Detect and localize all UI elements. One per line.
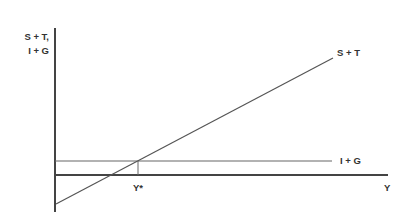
leakages-line-label: S + T <box>337 47 360 58</box>
y-axis-label-line1: S + T, <box>24 31 49 42</box>
y-axis-label-line2: I + G <box>28 45 49 56</box>
diagram-canvas: S + T, I + G S + T I + G Y Y* <box>0 0 407 220</box>
equilibrium-label: Y* <box>133 182 143 193</box>
injections-line-label: I + G <box>340 155 361 166</box>
leakages-line <box>56 58 333 204</box>
x-axis-label: Y <box>384 182 391 193</box>
